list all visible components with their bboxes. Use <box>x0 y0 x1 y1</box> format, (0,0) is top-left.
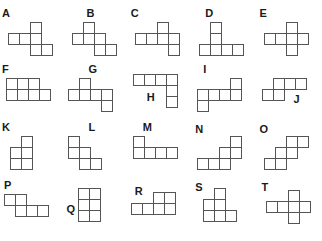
shape-square <box>37 205 49 217</box>
shape-square <box>286 147 298 159</box>
shape-square <box>41 44 53 56</box>
shape-square <box>166 147 178 159</box>
shape-square <box>275 158 287 170</box>
shape-square <box>90 158 102 170</box>
shape-label-h: H <box>147 92 155 103</box>
shape-cell-d: D <box>193 6 257 64</box>
shape-square <box>39 89 51 101</box>
shape-square <box>230 89 242 101</box>
shape-label-f: F <box>2 64 9 75</box>
shape-label-m: M <box>143 122 152 133</box>
shape-cell-f: F <box>0 64 64 122</box>
shape-label-q: Q <box>66 204 75 215</box>
shape-cell-p: P <box>0 180 64 238</box>
shape-square <box>295 78 307 90</box>
shape-square <box>225 210 237 222</box>
shape-square <box>101 100 113 112</box>
shape-label-a: A <box>2 8 10 19</box>
shape-square <box>166 96 178 108</box>
shape-square <box>273 89 285 101</box>
shape-cell-s: S <box>193 180 257 238</box>
shape-cell-t: T <box>258 180 322 238</box>
shape-label-j: J <box>294 94 300 105</box>
shape-square <box>168 44 180 56</box>
shape-cell-a: A <box>0 6 64 64</box>
shape-label-c: C <box>131 8 139 19</box>
shape-cell-h: H <box>129 64 193 122</box>
shape-cell-i: I <box>193 64 257 122</box>
shape-square <box>21 158 33 170</box>
shape-cell-g: G <box>64 64 128 122</box>
shape-square <box>230 147 242 159</box>
shape-label-r: R <box>135 186 143 197</box>
shape-label-p: P <box>4 180 11 191</box>
shape-cell-c: C <box>129 6 193 64</box>
shape-label-i: I <box>203 64 206 75</box>
shape-label-d: D <box>205 8 213 19</box>
shape-square <box>105 44 117 56</box>
shape-cell-m: M <box>129 122 193 180</box>
shape-label-n: N <box>195 124 203 135</box>
shape-cell-l: L <box>64 122 128 180</box>
shape-cell-n: N <box>193 122 257 180</box>
shape-grid: ABCDEFGHIJKLMNOPQRST <box>0 0 322 241</box>
shape-square <box>219 158 231 170</box>
shape-square <box>232 44 244 56</box>
shape-square <box>288 212 300 224</box>
shape-square <box>164 203 176 215</box>
shape-cell-j: J <box>258 64 322 122</box>
shape-cell-b: B <box>64 6 128 64</box>
shape-square <box>299 201 311 213</box>
shape-label-l: L <box>88 122 95 133</box>
shape-square <box>89 210 101 222</box>
shape-cell-r: R <box>129 180 193 238</box>
shape-label-k: K <box>2 122 10 133</box>
shape-cell-e: E <box>258 6 322 64</box>
shape-label-s: S <box>195 182 202 193</box>
shape-label-t: T <box>262 182 269 193</box>
shape-square <box>286 44 298 56</box>
shape-label-o: O <box>260 124 269 135</box>
shape-label-e: E <box>260 8 267 19</box>
shape-label-b: B <box>86 8 94 19</box>
shape-square <box>197 100 209 112</box>
shape-cell-q: Q <box>64 180 128 238</box>
shape-chart-sheet: ABCDEFGHIJKLMNOPQRST <box>0 0 322 241</box>
shape-cell-k: K <box>0 122 64 180</box>
shape-label-g: G <box>88 64 97 75</box>
shape-cell-o: O <box>258 122 322 180</box>
shape-square <box>297 136 309 148</box>
shape-square <box>297 33 309 45</box>
